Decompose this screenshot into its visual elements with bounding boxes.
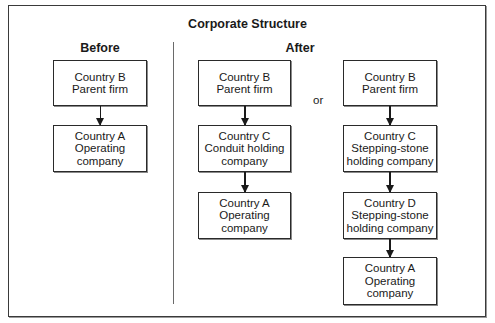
arrow-down-icon (389, 172, 391, 192)
before-box-operating-company: Country A Operating company (53, 125, 147, 172)
after2-box-parent-firm: Country B Parent firm (343, 60, 437, 106)
after2-box-country-c-stepping-stone: Country C Stepping-stone holding company (343, 125, 437, 172)
box-line: company (77, 155, 124, 168)
box-line: Country B (74, 71, 125, 84)
arrow-down-icon (389, 106, 391, 125)
box-line: Conduit holding (205, 142, 285, 155)
box-line: company (221, 222, 268, 235)
box-line: Country D (364, 197, 416, 210)
box-line: company (367, 287, 414, 300)
box-line: Country A (365, 262, 416, 275)
or-separator: or (313, 94, 323, 106)
box-line: company (221, 155, 268, 168)
box-line: Country A (75, 130, 126, 143)
box-line: Country B (219, 71, 270, 84)
arrow-down-icon (389, 239, 391, 257)
before-label: Before (53, 41, 147, 55)
after1-box-operating-company: Country A Operating company (198, 192, 291, 239)
box-line: Operating (75, 142, 126, 155)
box-line: Country A (219, 197, 270, 210)
box-line: Parent firm (362, 83, 418, 96)
before-after-divider (173, 42, 174, 304)
box-line: Operating (365, 275, 416, 288)
box-line: Country C (364, 130, 416, 143)
box-line: Parent firm (72, 83, 128, 96)
after-label: After (270, 41, 330, 55)
after2-box-operating-company: Country A Operating company (343, 257, 437, 305)
before-box-parent-firm: Country B Parent firm (53, 60, 147, 106)
diagram-title: Corporate Structure (0, 17, 495, 31)
arrow-down-icon (244, 106, 246, 125)
arrow-down-icon (244, 172, 246, 192)
after1-box-conduit-holding: Country C Conduit holding company (198, 125, 291, 172)
box-line: Stepping-stone (351, 209, 428, 222)
box-line: holding company (347, 222, 434, 235)
box-line: Stepping-stone (351, 142, 428, 155)
after2-box-country-d-stepping-stone: Country D Stepping-stone holding company (343, 192, 437, 239)
box-line: Parent firm (216, 83, 272, 96)
box-line: holding company (347, 155, 434, 168)
box-line: Operating (219, 209, 270, 222)
after1-box-parent-firm: Country B Parent firm (198, 60, 291, 106)
box-line: Country B (364, 71, 415, 84)
box-line: Country C (219, 130, 271, 143)
arrow-down-icon (100, 106, 102, 125)
